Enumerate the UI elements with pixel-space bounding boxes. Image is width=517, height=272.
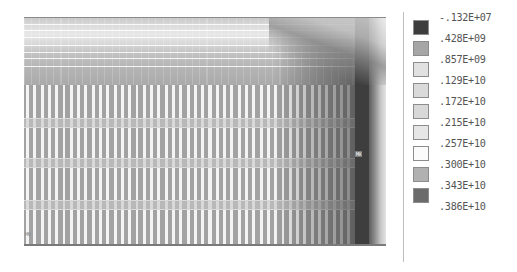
legend-label: .215E+10: [439, 116, 486, 129]
legend-label: .343E+10: [439, 179, 486, 192]
legend-label: .172E+10: [439, 95, 486, 108]
slot-row-4: [24, 210, 386, 244]
slot-row-3: [24, 168, 386, 200]
legend-label: .257E+10: [439, 137, 486, 150]
legend-swatch-2: [413, 41, 429, 56]
legend-label: .300E+10: [439, 158, 486, 171]
contour-legend: -.132E+07 .428E+09 .857E+09 .129E+10 .17…: [413, 0, 517, 272]
max-marker: MX: [355, 151, 362, 157]
legend-swatch-1: [413, 20, 429, 35]
legend-label: .428E+09: [439, 32, 486, 45]
legend-swatch-9: [413, 188, 429, 203]
legend-label: -.132E+07: [439, 11, 491, 24]
plot-band-2: [24, 158, 386, 168]
legend-swatch-6: [413, 125, 429, 140]
slot-row-2: [24, 128, 386, 158]
legend-swatch-3: [413, 62, 429, 77]
legend-label: .857E+09: [439, 53, 486, 66]
legend-swatch-5: [413, 104, 429, 119]
legend-label: .386E+10: [439, 200, 486, 213]
legend-swatch-4: [413, 83, 429, 98]
slot-row-1: [24, 85, 386, 118]
min-marker: MN: [24, 231, 31, 237]
plot-band-3: [24, 200, 386, 210]
contour-plot: MX MN: [24, 17, 386, 246]
legend-label: .129E+10: [439, 74, 486, 87]
legend-swatch-7: [413, 146, 429, 161]
plot-band-1: [24, 118, 386, 128]
legend-swatch-8: [413, 167, 429, 182]
legend-divider: [403, 12, 404, 262]
